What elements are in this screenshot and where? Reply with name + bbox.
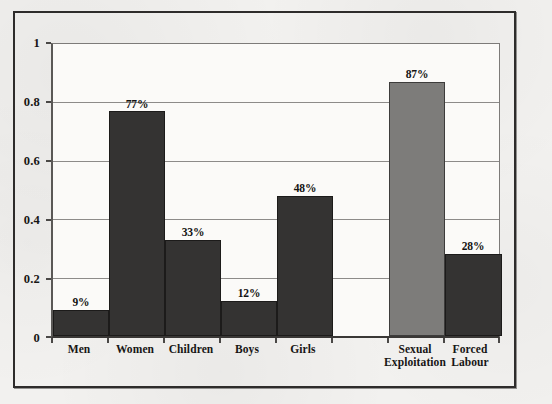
bar-forced-labour[interactable]	[445, 254, 502, 336]
x-axis-label-forced-labour: Forced Labour	[439, 343, 501, 369]
bar-women[interactable]	[109, 111, 165, 336]
bar-value-women: 77%	[126, 98, 149, 110]
bar-value-girls: 48%	[294, 182, 317, 194]
y-axis-tick-label-0.8: 0.8	[24, 95, 40, 110]
plot-area: 9% 77% 33% 12% 48% 87% 28%	[51, 43, 500, 338]
x-axis-label-men: Men	[51, 343, 107, 356]
y-axis-label-group: 1 0.8 0.6 0.4 0.2 0	[0, 43, 46, 338]
x-axis-label-group: Men Women Children Boys Girls Sexual Exp…	[51, 343, 500, 388]
x-axis-label-women: Women	[107, 343, 163, 356]
y-axis-tick-label-0: 0	[34, 331, 40, 346]
bar-value-sexual-exploitation: 87%	[406, 68, 429, 80]
y-axis-tick-label-0.2: 0.2	[24, 272, 40, 287]
x-axis-label-boys: Boys	[219, 343, 275, 356]
bar-value-boys: 12%	[238, 287, 261, 299]
bar-value-children: 33%	[182, 226, 205, 238]
bar-value-forced-labour: 28%	[462, 240, 485, 252]
bar-value-men: 9%	[72, 296, 89, 308]
bar-children[interactable]	[165, 240, 221, 336]
bar-sexual-exploitation[interactable]	[389, 82, 445, 336]
x-axis-label-children: Children	[163, 343, 219, 356]
y-axis-tick-label-0.4: 0.4	[24, 213, 40, 228]
chart-screenshot: 1 0.8 0.6 0.4 0.2 0 9% 77% 33% 12%	[0, 0, 552, 404]
bar-girls[interactable]	[277, 196, 333, 336]
bar-boys[interactable]	[221, 301, 277, 336]
bar-men[interactable]	[53, 310, 109, 336]
x-axis-label-girls: Girls	[275, 343, 331, 356]
bars-layer: 9% 77% 33% 12% 48% 87% 28%	[53, 44, 499, 336]
y-axis-tick-label-0.6: 0.6	[24, 154, 40, 169]
y-axis-tick-label-1: 1	[34, 36, 40, 51]
